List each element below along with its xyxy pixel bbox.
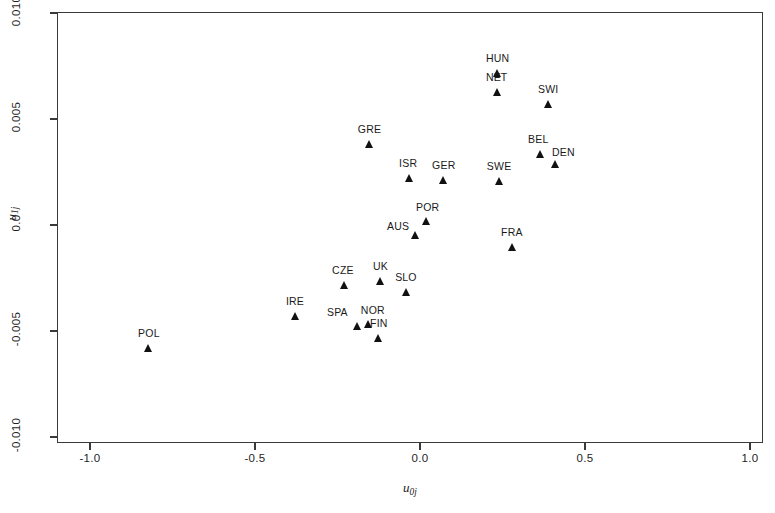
data-point-label: NET xyxy=(486,72,508,83)
data-point-label: ISR xyxy=(399,158,417,169)
y-axis-title-variable: u xyxy=(4,214,19,221)
y-axis-title-subscript: 1j xyxy=(10,207,20,214)
data-point-label: SPA xyxy=(327,307,348,318)
x-axis-title: u0j xyxy=(0,480,775,497)
x-tick-mark xyxy=(749,443,751,450)
x-tick-label: 0.5 xyxy=(555,452,615,464)
y-tick-label: 0.010 xyxy=(10,0,22,41)
triangle-marker-icon xyxy=(544,100,552,108)
triangle-marker-icon xyxy=(353,322,361,330)
triangle-marker-icon xyxy=(551,160,559,168)
data-point-label: BEL xyxy=(528,134,548,145)
triangle-marker-icon xyxy=(411,231,419,239)
y-axis-title: u1j xyxy=(4,183,21,243)
data-point-label: AUS xyxy=(387,221,409,232)
x-tick-label: -0.5 xyxy=(225,452,285,464)
x-tick-mark xyxy=(254,443,256,450)
triangle-marker-icon xyxy=(376,277,384,285)
data-point-label: UK xyxy=(373,261,388,272)
data-point-label: CZE xyxy=(332,265,354,276)
x-tick-label: -1.0 xyxy=(60,452,120,464)
y-tick-mark xyxy=(50,12,57,14)
y-tick-label: 0.005 xyxy=(10,87,22,147)
data-point-label: SWE xyxy=(487,161,512,172)
y-tick-mark xyxy=(50,436,57,438)
data-point-label: FRA xyxy=(501,227,523,238)
triangle-marker-icon xyxy=(291,312,299,320)
triangle-marker-icon xyxy=(422,217,430,225)
data-point-label: FIN xyxy=(370,318,388,329)
triangle-marker-icon xyxy=(405,174,413,182)
x-tick-mark xyxy=(89,443,91,450)
triangle-marker-icon xyxy=(374,334,382,342)
x-tick-label: 1.0 xyxy=(720,452,775,464)
data-point-label: IRE xyxy=(286,296,304,307)
scatter-plot-figure: -1.0-0.50.00.51.0 0.0100.0050.0-0.005-0.… xyxy=(0,0,775,513)
x-tick-label: 0.0 xyxy=(390,452,450,464)
triangle-marker-icon xyxy=(365,140,373,148)
triangle-marker-icon xyxy=(144,344,152,352)
triangle-marker-icon xyxy=(439,176,447,184)
x-axis-title-subscript: 0j xyxy=(410,487,417,497)
data-point-label: GRE xyxy=(358,124,381,135)
plot-data-area xyxy=(57,12,763,443)
y-tick-label: -0.005 xyxy=(10,299,22,359)
data-point-label: NOR xyxy=(361,305,385,316)
triangle-marker-icon xyxy=(340,281,348,289)
data-point-label: POL xyxy=(138,328,160,339)
data-point-label: SLO xyxy=(395,272,417,283)
data-point-label: SWI xyxy=(538,84,558,95)
data-point-label: DEN xyxy=(552,147,575,158)
data-point-label: POR xyxy=(416,202,439,213)
y-tick-mark xyxy=(50,118,57,120)
triangle-marker-icon xyxy=(495,177,503,185)
y-tick-label: -0.010 xyxy=(10,405,22,465)
triangle-marker-icon xyxy=(536,150,544,158)
x-tick-mark xyxy=(584,443,586,450)
data-point-label: GER xyxy=(432,160,455,171)
triangle-marker-icon xyxy=(508,243,516,251)
y-tick-mark xyxy=(50,330,57,332)
x-tick-mark xyxy=(419,443,421,450)
data-point-label: HUN xyxy=(486,53,509,64)
y-tick-mark xyxy=(50,224,57,226)
triangle-marker-icon xyxy=(493,88,501,96)
triangle-marker-icon xyxy=(402,288,410,296)
